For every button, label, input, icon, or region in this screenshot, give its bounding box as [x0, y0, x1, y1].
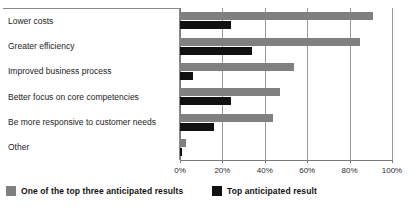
x-tick-100: [392, 160, 393, 163]
legend-label-top-anticipated: Top anticipated result: [227, 186, 317, 196]
legend-item-one-of-top-three: One of the top three anticipated results: [6, 186, 183, 196]
chart-legend: One of the top three anticipated results…: [6, 186, 406, 200]
legend-swatch-black: [212, 186, 222, 196]
legend-label-one-of-top-three: One of the top three anticipated results: [21, 186, 183, 196]
x-tick-40: [265, 160, 266, 163]
category-label-5: Other: [8, 142, 29, 152]
bar-gray-5: [180, 139, 186, 147]
gridline-60: [307, 8, 308, 160]
horizontal-bar-chart: 0%20%40%60%80%100% Lower costsGreater ef…: [0, 0, 409, 211]
x-tick-label-20: 20%: [214, 166, 230, 175]
bar-black-3: [180, 97, 231, 105]
gridline-20: [222, 8, 223, 160]
gridline-80: [350, 8, 351, 160]
plot-area: [180, 8, 392, 160]
bar-black-2: [180, 72, 193, 80]
bar-black-4: [180, 123, 214, 131]
category-label-3: Better focus on core competencies: [8, 92, 139, 102]
x-tick-label-40: 40%: [257, 166, 273, 175]
bar-black-1: [180, 47, 252, 55]
bar-gray-3: [180, 88, 280, 96]
x-tick-label-0: 0%: [174, 166, 186, 175]
category-label-0: Lower costs: [8, 16, 53, 26]
bar-black-5: [180, 148, 182, 156]
bar-gray-2: [180, 63, 294, 71]
legend-item-top-anticipated: Top anticipated result: [212, 186, 317, 196]
category-label-4: Be more responsive to customer needs: [8, 117, 156, 127]
legend-swatch-gray: [6, 186, 16, 196]
x-tick-label-100: 100%: [382, 166, 402, 175]
gridline-100: [392, 8, 393, 160]
label-column-frame: [3, 8, 180, 160]
x-tick-label-60: 60%: [299, 166, 315, 175]
x-tick-0: [180, 160, 181, 163]
category-label-1: Greater efficiency: [8, 41, 74, 51]
gridline-40: [265, 8, 266, 160]
bar-gray-0: [180, 12, 373, 20]
gridline-0: [180, 8, 181, 160]
x-axis-line: [180, 160, 393, 161]
category-label-2: Improved business process: [8, 66, 111, 76]
x-tick-60: [307, 160, 308, 163]
x-tick-label-80: 80%: [342, 166, 358, 175]
x-tick-20: [222, 160, 223, 163]
bar-black-0: [180, 21, 231, 29]
bar-gray-1: [180, 38, 360, 46]
clipped-title: [8, 0, 398, 5]
bar-gray-4: [180, 114, 273, 122]
x-tick-80: [350, 160, 351, 163]
